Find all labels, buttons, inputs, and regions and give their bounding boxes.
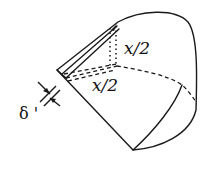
thickness-delta-label: δ '	[19, 106, 38, 122]
hidden-base-arc	[117, 66, 195, 100]
upper-half-length-label: x/2	[124, 40, 150, 57]
lower-half-length-label: x/2	[92, 77, 118, 94]
cone-outer-outline	[57, 12, 197, 150]
shell-inner-line-1	[62, 26, 117, 74]
cone-front-seam	[133, 85, 182, 150]
